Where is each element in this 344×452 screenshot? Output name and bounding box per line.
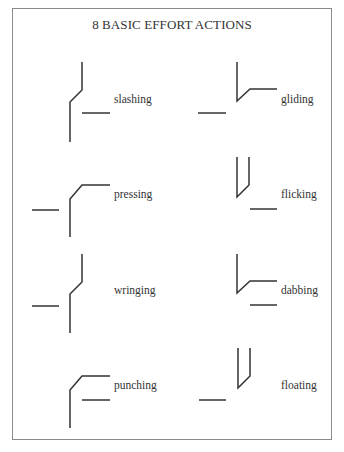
label-punching: punching — [114, 379, 157, 391]
flicking-symbol — [237, 157, 277, 209]
label-dabbing: dabbing — [281, 284, 318, 296]
label-gliding: gliding — [281, 93, 314, 105]
dabbing-symbol — [237, 254, 277, 305]
slashing-symbol — [70, 62, 110, 142]
label-pressing: pressing — [114, 188, 152, 200]
label-slashing: slashing — [114, 93, 152, 105]
wringing-symbol — [32, 254, 82, 333]
label-flicking: flicking — [281, 188, 317, 200]
gliding-symbol — [198, 62, 277, 113]
label-floating: floating — [281, 379, 317, 391]
punching-symbol — [70, 376, 110, 428]
label-wringing: wringing — [114, 284, 156, 296]
floating-symbol — [199, 348, 250, 400]
pressing-symbol — [32, 185, 110, 237]
